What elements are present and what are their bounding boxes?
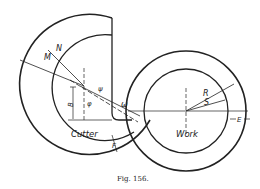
label-psi: ψ xyxy=(98,85,103,93)
label-m: M xyxy=(44,53,51,62)
gear-cutter-diagram: M N ψ φ ω B F Cutter R S E Work Fig. 156… xyxy=(0,0,260,189)
label-phi: φ xyxy=(87,100,92,108)
label-omega: ω xyxy=(121,100,128,109)
figure-caption: Fig. 156. xyxy=(117,175,149,183)
cutter-label: Cutter xyxy=(71,129,98,139)
label-n: N xyxy=(56,44,62,53)
label-e: E xyxy=(237,116,242,124)
label-r: R xyxy=(203,89,209,98)
label-b: B xyxy=(67,102,75,107)
work-label: Work xyxy=(176,129,199,139)
label-s: S xyxy=(204,98,209,107)
